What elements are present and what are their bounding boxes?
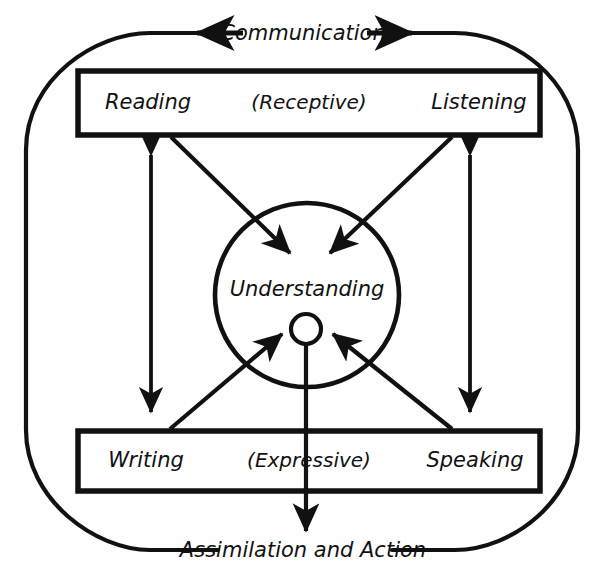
diagram-canvas: Communication Assimilation and Action	[0, 0, 607, 581]
reading-label: Reading	[105, 90, 191, 114]
inner-node-circle	[291, 314, 321, 344]
listening-label: Listening	[431, 90, 526, 114]
communication-label: Communication	[220, 21, 386, 45]
edge-speaking-to-understanding	[333, 334, 452, 429]
speaking-label: Speaking	[426, 448, 523, 472]
writing-label: Writing	[108, 448, 184, 472]
edge-reading-to-understanding	[171, 137, 290, 253]
receptive-caption: (Receptive)	[251, 90, 366, 114]
expressive-caption: (Expressive)	[247, 448, 371, 472]
edge-listening-to-understanding	[330, 137, 452, 253]
understanding-label: Understanding	[230, 277, 385, 301]
edge-writing-to-understanding	[170, 334, 282, 429]
communication-diagram: Communication Assimilation and Action	[0, 0, 607, 581]
assimilation-label: Assimilation and Action	[178, 538, 426, 562]
